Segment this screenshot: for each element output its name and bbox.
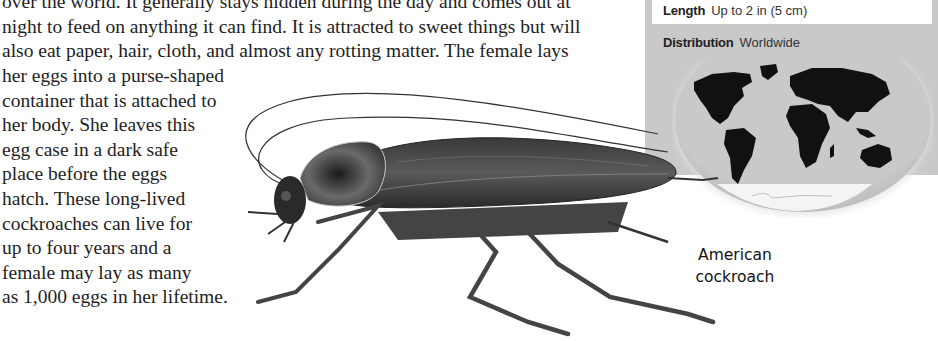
- caption-line-2: cockroach: [672, 266, 798, 288]
- text-line: egg case in a dark safe: [2, 138, 228, 163]
- text-line: her body. She leaves this: [2, 113, 228, 138]
- text-line: over the world. It generally stays hidde…: [2, 0, 580, 15]
- text-line: her eggs into a purse-shaped: [2, 64, 228, 89]
- text-line: container that is attached to: [2, 89, 228, 114]
- text-line: female may lay as many: [2, 261, 228, 286]
- cockroach-illustration: [228, 82, 728, 341]
- length-value: Up to 2 in (5 cm): [711, 3, 807, 18]
- distribution-label: Distribution: [663, 35, 734, 50]
- text-line: hatch. These long-lived: [2, 187, 228, 212]
- length-fact: LengthUp to 2 in (5 cm): [663, 3, 807, 18]
- article-text-narrow: her eggs into a purse-shaped container t…: [2, 64, 228, 310]
- text-line: up to four years and a: [2, 236, 228, 261]
- text-line: night to feed on anything it can find. I…: [2, 15, 580, 40]
- distribution-value: Worldwide: [740, 35, 800, 50]
- length-label: Length: [663, 3, 705, 18]
- distribution-fact: DistributionWorldwide: [663, 35, 800, 50]
- species-caption: American cockroach: [672, 244, 798, 288]
- text-line: cockroaches can live for: [2, 212, 228, 237]
- text-line: as 1,000 eggs in her lifetime.: [2, 285, 228, 310]
- article-text-wide: over the world. It generally stays hidde…: [2, 0, 580, 64]
- text-line: also eat paper, hair, cloth, and almost …: [2, 39, 580, 64]
- text-line: place before the eggs: [2, 162, 228, 187]
- caption-line-1: American: [672, 244, 798, 266]
